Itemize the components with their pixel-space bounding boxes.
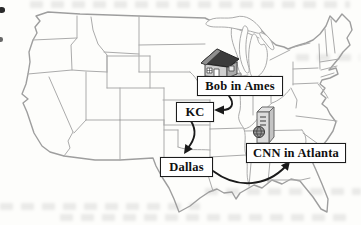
lake-superior: [206, 16, 262, 33]
arrow-ames-to-kc: [214, 96, 232, 115]
server-globe-icon: [254, 107, 275, 143]
us-map-route-figure: Bob in Ames KC Dallas CNN in Atlanta: [0, 0, 361, 225]
label-dallas: Dallas: [160, 157, 213, 177]
lake-michigan: [239, 26, 249, 73]
label-bob-in-ames: Bob in Ames: [197, 76, 283, 96]
label-kc: KC: [176, 102, 214, 122]
label-cnn-in-atlanta: CNN in Atlanta: [246, 143, 346, 163]
